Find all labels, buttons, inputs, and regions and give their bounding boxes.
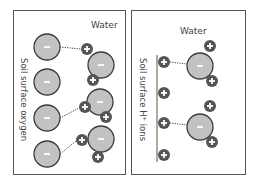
minus-sign-icon	[44, 117, 50, 119]
right-water-label: Water	[180, 26, 207, 36]
minus-sign-icon	[98, 138, 104, 140]
minus-sign-icon	[197, 126, 203, 128]
right-side-label: Soil surface H⁺ ions	[138, 58, 148, 142]
hydrogen-bond-line	[170, 62, 187, 64]
left-side-label: Soil surface oxygen	[19, 58, 29, 141]
water-adsorption-diagram: Water Soil surface oxygen Water Soil sur…	[0, 0, 256, 187]
hydrogen-bond-line	[170, 123, 187, 125]
minus-sign-icon	[44, 153, 50, 155]
hydrogen-bond-line	[60, 141, 76, 154]
minus-sign-icon	[97, 101, 103, 103]
minus-sign-icon	[197, 65, 203, 67]
hydrogen-bond-line	[60, 108, 79, 118]
minus-sign-icon	[98, 64, 104, 66]
hydrogen-bond-line	[60, 47, 81, 49]
minus-sign-icon	[44, 81, 50, 83]
left-water-label: Water	[91, 20, 118, 30]
minus-sign-icon	[44, 46, 50, 48]
